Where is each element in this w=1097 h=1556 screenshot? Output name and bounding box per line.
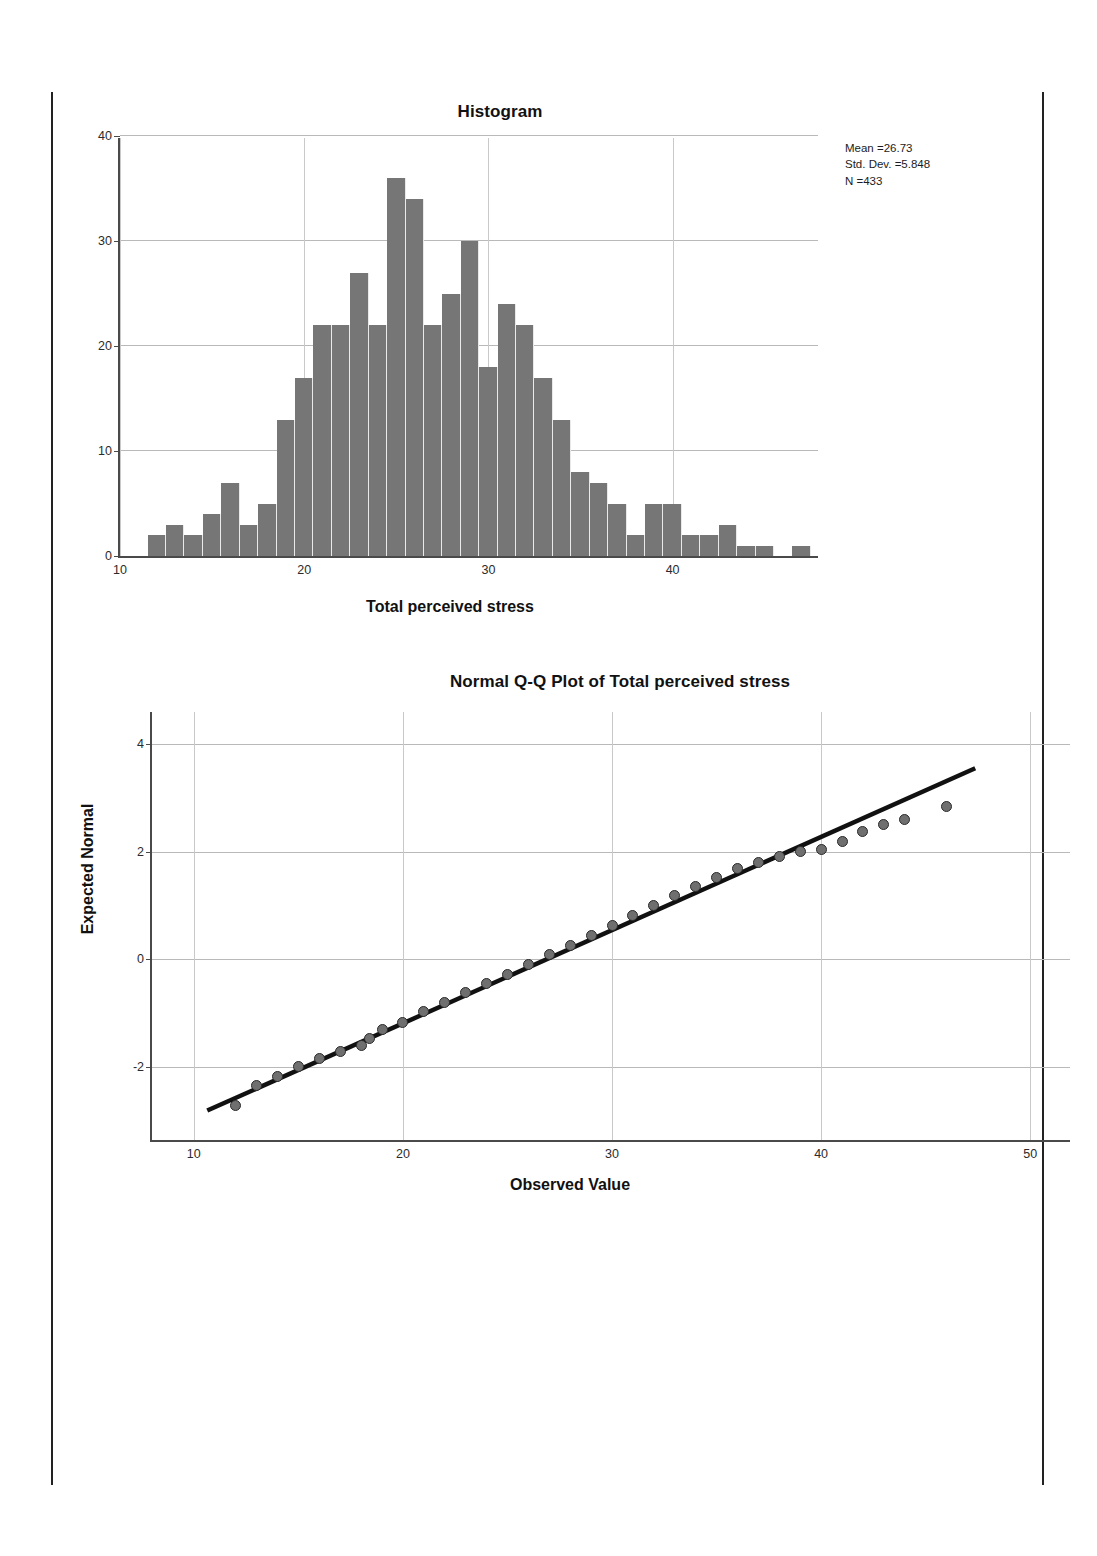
y-tick-mark bbox=[114, 136, 120, 137]
x-tick-label: 30 bbox=[605, 1147, 619, 1161]
histogram-bar bbox=[387, 178, 405, 556]
histogram-bar bbox=[277, 420, 295, 557]
histogram-bar bbox=[350, 273, 368, 557]
x-tick-label: 10 bbox=[113, 563, 127, 577]
histogram-bar bbox=[406, 199, 424, 556]
y-tick-label: 30 bbox=[98, 234, 112, 248]
histogram-plot-area: 010203040 10203040 bbox=[118, 138, 818, 558]
histogram-bar bbox=[442, 294, 460, 557]
histogram-bar bbox=[663, 504, 681, 557]
x-tick-label: 10 bbox=[187, 1147, 201, 1161]
qq-x-axis-title: Observed Value bbox=[360, 1176, 780, 1194]
qq-chart: Normal Q-Q Plot of Total perceived stres… bbox=[60, 660, 1050, 1220]
qq-point bbox=[816, 844, 827, 855]
stats-stddev: Std. Dev. =5.848 bbox=[845, 156, 930, 172]
x-tick-label: 40 bbox=[666, 563, 680, 577]
histogram-bar bbox=[148, 535, 166, 556]
histogram-bar bbox=[792, 546, 810, 557]
qq-point bbox=[439, 997, 450, 1008]
qq-title: Normal Q-Q Plot of Total perceived stres… bbox=[240, 672, 1000, 692]
y-tick-label: 20 bbox=[98, 339, 112, 353]
qq-point bbox=[711, 872, 722, 883]
histogram-chart: Histogram 010203040 10203040 Total perce… bbox=[60, 88, 1020, 628]
y-tick-mark bbox=[114, 241, 120, 242]
histogram-title: Histogram bbox=[180, 102, 820, 122]
y-tick-mark bbox=[146, 744, 152, 745]
x-tick-label: 50 bbox=[1023, 1147, 1037, 1161]
histogram-bar bbox=[166, 525, 184, 557]
histogram-bar bbox=[240, 525, 258, 557]
histogram-bar bbox=[737, 546, 755, 557]
histogram-bar bbox=[369, 325, 387, 556]
histogram-bar bbox=[719, 525, 737, 557]
y-tick-mark bbox=[114, 346, 120, 347]
x-tick-label: 30 bbox=[481, 563, 495, 577]
y-tick-mark bbox=[146, 852, 152, 853]
histogram-bar bbox=[184, 535, 202, 556]
y-tick-mark bbox=[146, 1067, 152, 1068]
histogram-bar bbox=[516, 325, 534, 556]
gridline bbox=[673, 138, 674, 556]
histogram-bar bbox=[258, 504, 276, 557]
qq-point bbox=[795, 846, 806, 857]
histogram-x-axis-title: Total perceived stress bbox=[240, 598, 660, 616]
histogram-bar bbox=[313, 325, 331, 556]
y-tick-label: 4 bbox=[137, 737, 144, 751]
qq-point bbox=[753, 857, 764, 868]
x-tick-label: 40 bbox=[814, 1147, 828, 1161]
histogram-bar bbox=[627, 535, 645, 556]
qq-point bbox=[565, 940, 576, 951]
histogram-bar bbox=[534, 378, 552, 557]
histogram-bar bbox=[424, 325, 442, 556]
stats-n: N =433 bbox=[845, 173, 930, 189]
qq-point bbox=[502, 969, 513, 980]
y-tick-label: 0 bbox=[137, 952, 144, 966]
gridline bbox=[120, 135, 818, 136]
histogram-bar bbox=[498, 304, 516, 556]
gridline bbox=[120, 138, 121, 556]
qq-point bbox=[607, 920, 618, 931]
y-tick-mark bbox=[114, 556, 120, 557]
histogram-stats-annotation: Mean =26.73 Std. Dev. =5.848 N =433 bbox=[845, 140, 930, 189]
qq-point bbox=[481, 978, 492, 989]
qq-point bbox=[941, 801, 952, 812]
x-tick-label: 20 bbox=[297, 563, 311, 577]
histogram-bar bbox=[553, 420, 571, 557]
y-tick-label: 2 bbox=[137, 845, 144, 859]
qq-y-axis-title: Expected Normal bbox=[79, 779, 97, 959]
y-tick-mark bbox=[146, 959, 152, 960]
qq-point bbox=[230, 1100, 241, 1111]
histogram-bar bbox=[571, 472, 589, 556]
histogram-bar bbox=[221, 483, 239, 557]
histogram-bar bbox=[461, 241, 479, 556]
qq-point bbox=[586, 930, 597, 941]
qq-point bbox=[523, 959, 534, 970]
qq-point bbox=[314, 1053, 325, 1064]
y-tick-label: 0 bbox=[105, 549, 112, 563]
x-tick-label: 20 bbox=[396, 1147, 410, 1161]
qq-point bbox=[774, 851, 785, 862]
report-page: Histogram 010203040 10203040 Total perce… bbox=[0, 0, 1097, 1556]
page-left-rule bbox=[51, 92, 53, 1485]
histogram-bar bbox=[479, 367, 497, 556]
y-tick-label: 10 bbox=[98, 444, 112, 458]
histogram-bar bbox=[682, 535, 700, 556]
stats-mean: Mean =26.73 bbox=[845, 140, 930, 156]
histogram-bar bbox=[608, 504, 626, 557]
histogram-bar bbox=[700, 535, 718, 556]
histogram-bar bbox=[332, 325, 350, 556]
qq-point bbox=[690, 881, 701, 892]
qq-point bbox=[335, 1046, 346, 1057]
qq-point bbox=[377, 1024, 388, 1035]
histogram-bar bbox=[645, 504, 663, 557]
qq-point bbox=[837, 836, 848, 847]
histogram-bar bbox=[295, 378, 313, 557]
histogram-bar bbox=[590, 483, 608, 557]
qq-point bbox=[272, 1071, 283, 1082]
y-tick-mark bbox=[114, 451, 120, 452]
y-tick-label: -2 bbox=[133, 1060, 144, 1074]
histogram-bar bbox=[756, 546, 774, 557]
histogram-bar bbox=[203, 514, 221, 556]
y-tick-label: 40 bbox=[98, 129, 112, 143]
qq-plot-area: -2024 1020304050 bbox=[150, 712, 1070, 1142]
